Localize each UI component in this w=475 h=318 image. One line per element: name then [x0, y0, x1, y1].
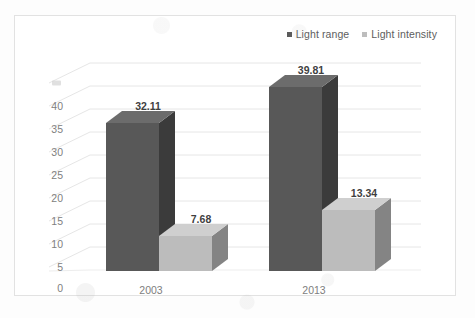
bar-2013-light-intensity[interactable]: [322, 198, 391, 271]
y-axis-tick-label: 35: [37, 124, 63, 135]
y-axis-tick-label: 5: [37, 262, 63, 273]
data-label-2013-light-range: 39.81: [298, 64, 324, 76]
data-label-2003-light-range: 32.11: [135, 100, 161, 112]
x-axis-tick-label-2013: 2013: [302, 284, 325, 296]
y-axis-smudge-artifact: [52, 81, 61, 86]
y-axis-tick-label: 10: [37, 239, 63, 250]
data-label-2013-light-intensity: 13.34: [351, 187, 377, 199]
y-axis-tick-label: 0: [37, 283, 63, 294]
y-axis-tick-label: 20: [37, 193, 63, 204]
y-axis: 40 35 30 25 20 15 10 5 0: [29, 16, 63, 297]
chart-screenshot: Light range Light intensity: [0, 0, 475, 318]
y-axis-tick-label: 25: [37, 170, 63, 181]
y-axis-tick-label: 30: [37, 147, 63, 158]
plot-grid-and-bars: [15, 16, 457, 297]
y-axis-tick-label: 15: [37, 216, 63, 227]
y-axis-tick-label: 40: [37, 101, 63, 112]
data-label-2003-light-intensity: 7.68: [191, 213, 211, 225]
x-axis-tick-label-2003: 2003: [139, 284, 162, 296]
plot-area: 40 35 30 25 20 15 10 5 0 2003 2013 32.11…: [15, 16, 457, 297]
chart-frame: Light range Light intensity: [14, 15, 456, 296]
bar-2003-light-intensity[interactable]: [159, 224, 228, 271]
